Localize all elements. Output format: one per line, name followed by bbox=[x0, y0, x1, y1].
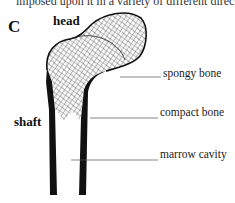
bone-diagram bbox=[0, 0, 235, 203]
